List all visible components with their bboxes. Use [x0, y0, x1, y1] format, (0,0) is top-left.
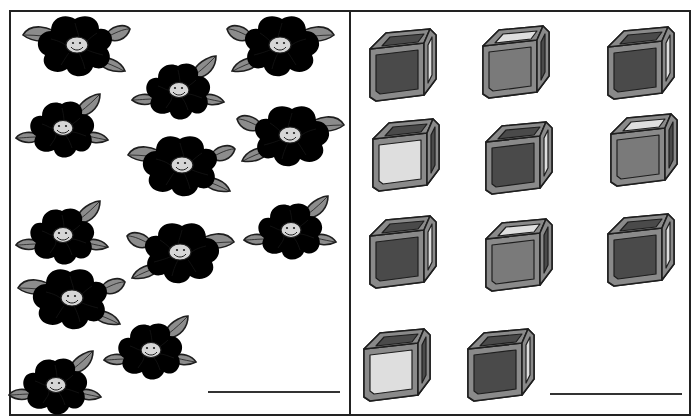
flowers-panel	[11, 12, 349, 414]
cubes-panel	[351, 12, 689, 414]
counting-worksheet: .leaf{fill:#8c8c8c;stroke:#1e1e1e;stroke…	[0, 0, 694, 419]
